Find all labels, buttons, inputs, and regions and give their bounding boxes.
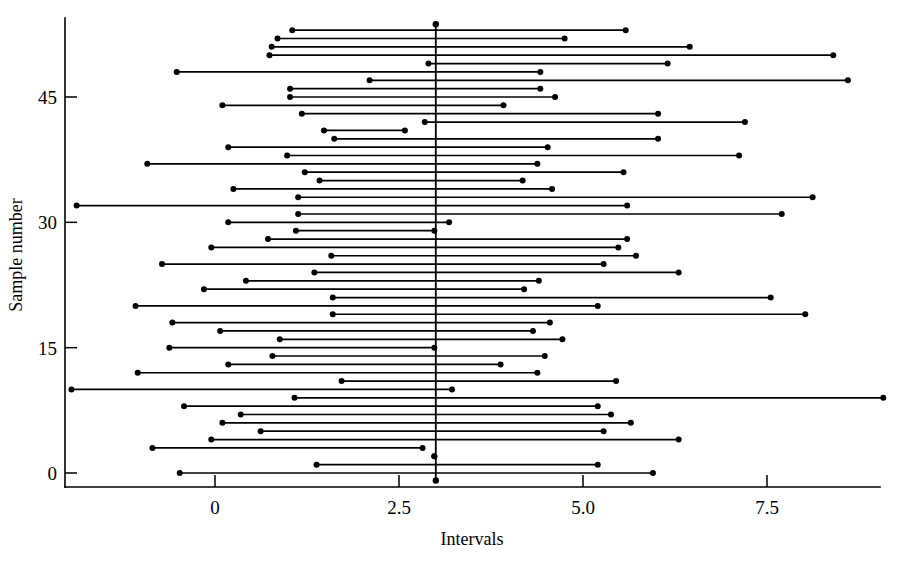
interval-upper-endpoint [830, 52, 836, 58]
interval-upper-endpoint [545, 144, 551, 150]
interval-row [287, 86, 543, 92]
interval-row [219, 102, 506, 108]
interval-row [181, 403, 601, 409]
interval-series [68, 27, 886, 476]
interval-lower-endpoint [208, 244, 214, 250]
interval-upper-endpoint [628, 420, 634, 426]
interval-upper-endpoint [845, 77, 851, 83]
interval-row [422, 119, 748, 125]
interval-upper-endpoint [802, 311, 808, 317]
interval-upper-endpoint [624, 203, 630, 209]
interval-lower-endpoint [287, 94, 293, 100]
interval-row [135, 370, 541, 376]
interval-lower-endpoint [166, 345, 172, 351]
interval-upper-endpoint [655, 111, 661, 117]
y-tick-label: 0 [48, 463, 58, 484]
interval-lower-endpoint [219, 102, 225, 108]
interval-lower-endpoint [201, 286, 207, 292]
x-tick-label: 0 [210, 497, 220, 518]
y-axis-label: Sample number [6, 198, 26, 311]
interval-lower-endpoint [284, 152, 290, 158]
interval-upper-endpoint [547, 320, 553, 326]
y-tick-label: 45 [38, 87, 57, 108]
interval-upper-endpoint [562, 36, 568, 42]
interval-row [201, 286, 527, 292]
interval-lower-endpoint [331, 136, 337, 142]
interval-lower-endpoint [181, 403, 187, 409]
interval-upper-endpoint [501, 102, 507, 108]
interval-lower-endpoint [225, 361, 231, 367]
confidence-interval-chart: 0153045 02.55.07.5 Intervals Sample numb… [0, 0, 897, 563]
interval-row [328, 253, 639, 259]
x-tick-label: 7.5 [755, 497, 779, 518]
interval-row [302, 169, 627, 175]
interval-upper-endpoint [810, 194, 816, 200]
interval-upper-endpoint [595, 403, 601, 409]
interval-row [330, 311, 809, 317]
interval-row [321, 127, 408, 133]
interval-lower-endpoint [74, 203, 80, 209]
interval-row [299, 111, 661, 117]
interval-upper-endpoint [449, 386, 455, 392]
interval-lower-endpoint [302, 169, 308, 175]
interval-row [287, 94, 558, 100]
interval-row [217, 328, 536, 334]
interval-upper-endpoint [536, 278, 542, 284]
interval-upper-endpoint [655, 136, 661, 142]
interval-row [159, 261, 607, 267]
interval-upper-endpoint [676, 437, 682, 443]
interval-lower-endpoint [425, 61, 431, 67]
interval-lower-endpoint [133, 303, 139, 309]
interval-upper-endpoint [665, 61, 671, 67]
interval-upper-endpoint [624, 236, 630, 242]
interval-upper-endpoint [498, 361, 504, 367]
interval-lower-endpoint [339, 378, 345, 384]
interval-upper-endpoint [608, 412, 614, 418]
interval-row [311, 269, 681, 275]
interval-lower-endpoint [208, 437, 214, 443]
interval-lower-endpoint [299, 111, 305, 117]
interval-lower-endpoint [291, 395, 297, 401]
interval-lower-endpoint [422, 119, 428, 125]
interval-row [225, 144, 550, 150]
interval-row [149, 445, 425, 451]
interval-lower-endpoint [68, 386, 74, 392]
interval-lower-endpoint [135, 370, 141, 376]
interval-upper-endpoint [633, 253, 639, 259]
interval-row [230, 186, 555, 192]
interval-upper-endpoint [736, 152, 742, 158]
interval-upper-endpoint [530, 328, 536, 334]
interval-upper-endpoint [601, 428, 607, 434]
x-axis-label: Intervals [441, 529, 504, 549]
interval-upper-endpoint [520, 178, 526, 184]
interval-lower-endpoint [219, 420, 225, 426]
interval-upper-endpoint [537, 86, 543, 92]
interval-lower-endpoint [269, 353, 275, 359]
interval-row [425, 61, 670, 67]
interval-lower-endpoint [293, 228, 299, 234]
interval-upper-endpoint [402, 127, 408, 133]
interval-lower-endpoint [230, 186, 236, 192]
interval-lower-endpoint [275, 36, 281, 42]
interval-lower-endpoint [144, 161, 150, 167]
interval-lower-endpoint [321, 127, 327, 133]
interval-upper-endpoint [537, 69, 543, 75]
interval-upper-endpoint [542, 353, 548, 359]
interval-lower-endpoint [258, 428, 264, 434]
interval-lower-endpoint [295, 194, 301, 200]
interval-row [339, 378, 620, 384]
interval-lower-endpoint [330, 295, 336, 301]
interval-lower-endpoint [317, 178, 323, 184]
interval-row [238, 412, 614, 418]
interval-upper-endpoint [676, 269, 682, 275]
interval-upper-endpoint [446, 219, 452, 225]
interval-row [367, 77, 851, 83]
interval-lower-endpoint [243, 278, 249, 284]
interval-row [330, 295, 774, 301]
interval-upper-endpoint [552, 94, 558, 100]
interval-upper-endpoint [779, 211, 785, 217]
y-tick-label: 15 [38, 338, 57, 359]
interval-lower-endpoint [289, 27, 295, 33]
interval-row [133, 303, 601, 309]
interval-row [208, 437, 681, 443]
